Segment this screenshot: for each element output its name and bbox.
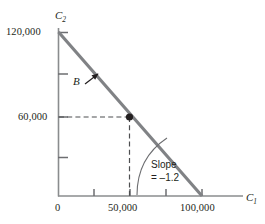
y-tick-label-120000: 120,000 bbox=[6, 27, 41, 38]
slope-annotation-line2: = –1.2 bbox=[151, 172, 179, 185]
x-tick-label-50000: 50,000 bbox=[108, 203, 137, 214]
budget-constraint-chart: 120,000 60,000 0 50,000 100,000 C2 C1 B … bbox=[0, 0, 265, 224]
y-tick-label-60000: 60,000 bbox=[18, 112, 47, 123]
y-axis-title: C2 bbox=[55, 10, 66, 24]
chosen-bundle-point bbox=[126, 113, 133, 120]
slope-annotation-line1: Slope bbox=[151, 159, 179, 172]
budget-line-label: B bbox=[73, 76, 80, 87]
slope-annotation: Slope = –1.2 bbox=[151, 159, 179, 184]
x-tick-label-0: 0 bbox=[55, 203, 60, 214]
x-axis-title-subscript: 1 bbox=[253, 197, 257, 206]
budget-line-arrow bbox=[85, 74, 99, 85]
y-axis-title-subscript: 2 bbox=[62, 15, 66, 24]
x-axis-title: C1 bbox=[246, 192, 257, 206]
x-tick-label-100000: 100,000 bbox=[180, 203, 215, 214]
